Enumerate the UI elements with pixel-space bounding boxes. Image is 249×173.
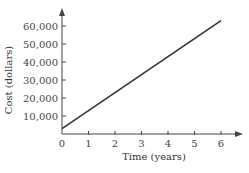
x-tick-label: 4	[165, 138, 171, 149]
y-tick-label: 50,000	[23, 39, 58, 50]
y-axis-arrow-icon	[59, 8, 65, 16]
x-tick-label: 2	[112, 138, 118, 149]
y-tick-label: 30,000	[23, 75, 58, 86]
y-tick-label: 20,000	[23, 93, 58, 104]
x-tick-label: 1	[85, 138, 91, 149]
cost-line	[62, 21, 221, 129]
x-tick-label: 6	[218, 138, 224, 149]
x-axis-arrow-icon	[235, 131, 243, 137]
x-tick-label: 5	[191, 138, 197, 149]
y-tick-label: 60,000	[23, 21, 58, 32]
x-axis-title: Time (years)	[122, 151, 186, 162]
x-tick-label: 3	[138, 138, 144, 149]
y-axis-title: Cost (dollars)	[3, 46, 14, 115]
y-ticks: 10,00020,00030,00040,00050,00060,000	[23, 21, 66, 122]
x-tick-label: 0	[59, 138, 65, 149]
line-chart: 0123456 10,00020,00030,00040,00050,00060…	[0, 0, 249, 173]
y-tick-label: 10,000	[23, 111, 58, 122]
y-tick-label: 40,000	[23, 57, 58, 68]
